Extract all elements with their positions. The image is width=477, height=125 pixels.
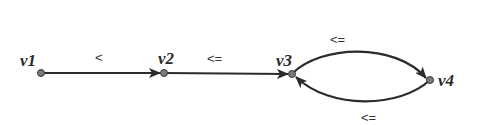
graph-diagram: v1 v2 v3 v4 < <= <= <= xyxy=(0,0,477,125)
node-v1 xyxy=(38,70,45,77)
node-v3 xyxy=(289,71,296,78)
node-v2 xyxy=(161,70,168,77)
node-label-v3: v3 xyxy=(276,51,293,70)
edge-v2-v3 xyxy=(164,73,288,74)
edge-label-v2-v3: <= xyxy=(207,51,222,66)
edge-v3-v4-upper xyxy=(292,52,426,78)
node-label-v2: v2 xyxy=(158,49,175,68)
node-v4 xyxy=(427,77,434,84)
node-label-v4: v4 xyxy=(438,71,454,90)
edge-label-v1-v2: < xyxy=(95,50,103,65)
edge-label-v4-v3: <= xyxy=(361,110,376,125)
node-label-v1: v1 xyxy=(20,51,36,70)
edge-v4-v3-lower xyxy=(296,77,430,101)
edge-label-v3-v4: <= xyxy=(330,32,345,47)
